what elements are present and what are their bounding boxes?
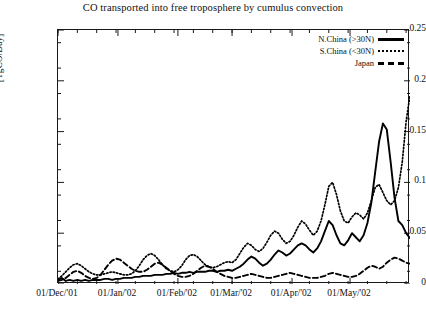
legend-item[interactable]: S.China (<30N)	[228, 45, 404, 56]
data-series-group	[58, 95, 410, 281]
legend-label: S.China (<30N)	[320, 46, 374, 56]
series-line	[58, 123, 410, 280]
legend-item[interactable]: N.China (>30N)	[228, 33, 404, 44]
legend-item[interactable]: Japan	[228, 57, 404, 68]
y-axis-label: [TgCO/Day]	[0, 0, 4, 118]
legend-label: Japan	[355, 58, 374, 68]
legend-label: N.China (>30N)	[318, 34, 374, 44]
chart-title: CO transported into free troposphere by …	[0, 2, 426, 13]
x-tick-label: 01/May/'02	[314, 288, 384, 298]
legend-line-swatch	[378, 35, 404, 43]
legend-line-swatch	[378, 59, 404, 67]
chart-figure: CO transported into free troposphere by …	[0, 0, 426, 315]
chart-legend: N.China (>30N)S.China (<30N)Japan	[228, 33, 404, 69]
series-line	[58, 95, 410, 279]
legend-line-swatch	[378, 47, 404, 55]
